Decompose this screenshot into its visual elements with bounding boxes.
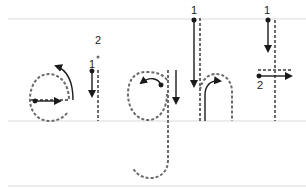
letter-tracing-canvas [0, 0, 306, 188]
i-step-1-number: 1 [89, 59, 95, 70]
i-dot [97, 56, 100, 59]
letter-e [30, 74, 69, 121]
g-stroke-arrows [141, 70, 176, 103]
h-stroke-arrows [192, 18, 220, 121]
e-stroke-arrows [33, 66, 73, 103]
i-step-2-number: 2 [95, 35, 101, 46]
h-step-1-number: 1 [191, 5, 197, 16]
letter-t [258, 20, 292, 121]
i-stroke-arrows [90, 69, 94, 96]
handwriting-worksheet: 2 1 1 1 2 [0, 0, 306, 188]
t-step-1-number: 1 [264, 5, 270, 16]
t-step-2-number: 2 [257, 80, 263, 91]
